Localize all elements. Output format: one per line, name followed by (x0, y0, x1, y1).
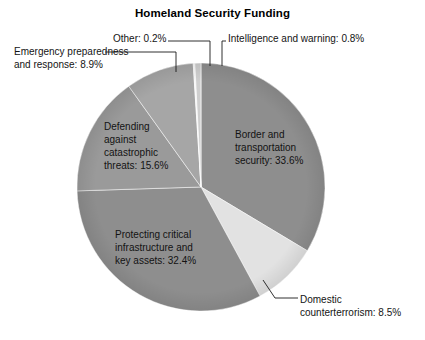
protecting-line-1: Protecting critical (115, 228, 196, 241)
callout-emergency-line-1: Emergency preparedness (14, 46, 129, 59)
leader-line-intelligence (222, 41, 226, 66)
slice-label-protecting-critical-infrastructure: Protecting critical infrastructure and k… (115, 228, 196, 267)
defending-line-4: threats: 15.6% (104, 159, 168, 172)
pie-chart-figure: Homeland Security Funding Emergency prep… (0, 0, 425, 340)
protecting-line-3: key assets: 32.4% (115, 254, 196, 267)
callout-label-domestic-counterterrorism: Domestic counterterrorism: 8.5% (300, 294, 401, 319)
slice-label-border-and-transportation-security: Border and transportation security: 33.6… (235, 128, 303, 167)
leader-line-other (168, 41, 210, 66)
callout-domestic-line-2: counterterrorism: 8.5% (300, 307, 401, 320)
border-line-3: security: 33.6% (235, 154, 303, 167)
callout-domestic-line-1: Domestic (300, 294, 401, 307)
defending-line-2: against (104, 133, 168, 146)
border-line-2: transportation (235, 141, 303, 154)
defending-line-1: Defending (104, 120, 168, 133)
callout-label-other: Other: 0.2% (113, 33, 166, 46)
pie-edge-shading (77, 63, 325, 311)
protecting-line-2: infrastructure and (115, 241, 196, 254)
defending-line-3: catastrophic (104, 146, 168, 159)
border-line-1: Border and (235, 128, 303, 141)
callout-emergency-line-2: and response: 8.9% (14, 59, 129, 72)
slice-label-defending-against-catastrophic-threats: Defending against catastrophic threats: … (104, 120, 168, 172)
callout-label-emergency-preparedness: Emergency preparedness and response: 8.9… (14, 46, 129, 71)
callout-label-intelligence-and-warning: Intelligence and warning: 0.8% (228, 33, 364, 46)
